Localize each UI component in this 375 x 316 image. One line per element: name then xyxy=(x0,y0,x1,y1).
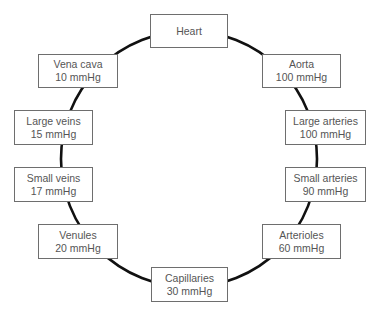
node-aorta: Aorta 100 mmHg xyxy=(262,54,341,88)
node-large-veins: Large veins 15 mmHg xyxy=(14,110,93,145)
node-label: Venules xyxy=(59,229,96,242)
node-pressure: 15 mmHg xyxy=(31,128,77,141)
node-small-veins: Small veins 17 mmHg xyxy=(14,167,93,202)
node-large-arteries: Large arteries 100 mmHg xyxy=(285,110,366,145)
node-pressure: 60 mmHg xyxy=(279,242,325,255)
node-pressure: 17 mmHg xyxy=(31,185,77,198)
node-capillaries: Capillaries 30 mmHg xyxy=(151,267,228,302)
node-label: Capillaries xyxy=(165,272,214,285)
node-label: Small arteries xyxy=(293,172,357,185)
node-label: Heart xyxy=(176,25,202,38)
node-label: Arterioles xyxy=(279,229,323,242)
node-label: Aorta xyxy=(289,58,314,71)
node-pressure: 10 mmHg xyxy=(55,71,101,84)
node-pressure: 100 mmHg xyxy=(276,71,327,84)
node-pressure: 30 mmHg xyxy=(167,285,213,298)
node-pressure: 20 mmHg xyxy=(55,242,101,255)
node-pressure: 90 mmHg xyxy=(303,185,349,198)
node-pressure: 100 mmHg xyxy=(300,128,351,141)
node-heart: Heart xyxy=(150,14,228,48)
node-small-arteries: Small arteries 90 mmHg xyxy=(285,167,366,202)
node-arterioles: Arterioles 60 mmHg xyxy=(262,224,341,259)
node-label: Small veins xyxy=(27,172,81,185)
node-vena-cava: Vena cava 10 mmHg xyxy=(38,54,118,88)
circulation-pressure-diagram: Heart Aorta 100 mmHg Large arteries 100 … xyxy=(0,0,375,316)
node-venules: Venules 20 mmHg xyxy=(38,224,118,259)
node-label: Large arteries xyxy=(293,115,358,128)
node-label: Vena cava xyxy=(53,58,102,71)
node-label: Large veins xyxy=(26,115,80,128)
